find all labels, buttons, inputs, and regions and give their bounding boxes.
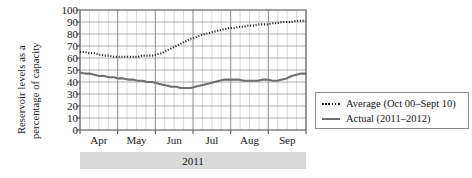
x-tick-label: Sep [267,135,307,146]
x-tick-label: May [117,135,157,146]
x-tick-label: Jun [154,135,194,146]
x-tick-label: Jul [192,135,232,146]
x-axis-period-band: 2011 [80,152,306,169]
chart-legend: Average (Oct 00–Sept 10) Actual (2011–20… [315,92,469,129]
solid-line-icon [321,114,341,124]
legend-item-average: Average (Oct 00–Sept 10) [321,96,464,111]
dotted-line-icon [321,99,341,109]
x-axis-period-label: 2011 [182,155,204,167]
legend-item-actual: Actual (2011–2012) [321,111,464,126]
reservoir-levels-chart: Reservoir levels as a percentage of capa… [0,0,472,178]
x-tick-label: Aug [230,135,270,146]
legend-label-average: Average (Oct 00–Sept 10) [346,98,456,109]
x-tick-label: Apr [79,135,119,146]
legend-label-actual: Actual (2011–2012) [346,113,430,124]
